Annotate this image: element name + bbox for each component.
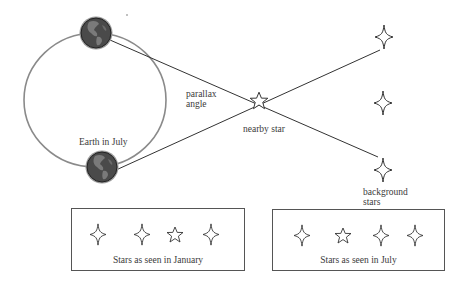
panel-january: Stars as seen in January	[71, 208, 245, 271]
sightline-january	[110, 40, 378, 157]
sightline-july	[116, 50, 380, 170]
background-star-icon	[374, 91, 392, 115]
nearby-star-icon	[250, 92, 268, 109]
background-stars-label: background stars	[363, 187, 408, 207]
earth-july-icon	[86, 151, 119, 184]
panel-january-label: Stars as seen in January	[72, 255, 244, 265]
background-star-icon	[375, 25, 393, 49]
parallax-angle-label: parallax angle	[186, 89, 217, 109]
earth-in-july-label: Earth in July	[79, 137, 128, 147]
earth-january-icon	[80, 17, 113, 50]
nearby-star-label: nearby star	[243, 124, 285, 134]
background-star-icon	[374, 158, 392, 182]
panel-july: Stars as seen in July	[272, 209, 445, 271]
panel-july-label: Stars as seen in July	[273, 255, 444, 265]
